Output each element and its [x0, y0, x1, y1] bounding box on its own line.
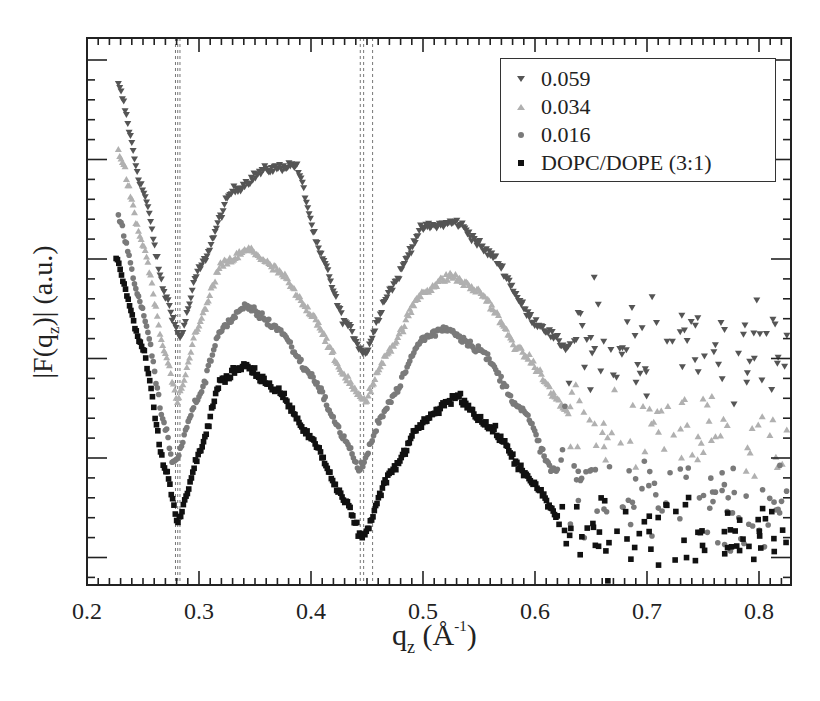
x-axis-unit: (Å	[415, 618, 454, 651]
legend-item-0059: 0.059	[501, 65, 775, 93]
x-axis-unit-exponent: -1	[454, 618, 467, 634]
y-axis-label: |F(qz)| (a.u.)	[27, 245, 64, 378]
x-axis-label: qz (Å-1)	[392, 618, 477, 658]
x-tick-label: 0.3	[184, 598, 214, 624]
legend-label: 0.034	[541, 93, 591, 121]
legend-label: 0.059	[541, 65, 591, 93]
x-axis-label-main: q	[392, 618, 407, 651]
x-tick-label: 0.2	[72, 598, 102, 624]
legend: 0.059 0.034 0.016 DOPC/DOPE (3:1)	[500, 58, 776, 182]
x-tick-label: 0.8	[744, 598, 774, 624]
legend-item-dopc-dope: DOPC/DOPE (3:1)	[501, 149, 775, 177]
square-marker-icon	[501, 158, 541, 168]
series-0-016	[116, 212, 790, 554]
legend-item-0034: 0.034	[501, 93, 775, 121]
circle-marker-icon	[501, 130, 541, 140]
y-axis-label-rest: )| (a.u.)	[27, 245, 58, 326]
x-axis-label-sub: z	[407, 637, 415, 657]
triangle-up-marker-icon	[501, 102, 541, 112]
x-tick-label: 0.7	[632, 598, 662, 624]
triangle-down-marker-icon	[501, 74, 541, 84]
y-axis-label-main: |F(q	[27, 334, 58, 379]
y-axis-label-sub: z	[44, 326, 63, 334]
x-tick-label: 0.6	[520, 598, 550, 624]
x-axis-unit-close: )	[467, 618, 477, 651]
series-0-034	[115, 146, 790, 479]
x-tick-label: 0.4	[296, 598, 326, 624]
chart: 0.20.30.40.50.60.70.8 0.059 0.034 0.016 …	[0, 0, 820, 701]
series-dopc-dope-3-1-	[113, 256, 789, 584]
legend-item-0016: 0.016	[501, 121, 775, 149]
legend-label: DOPC/DOPE (3:1)	[541, 149, 712, 177]
legend-label: 0.016	[541, 121, 591, 149]
